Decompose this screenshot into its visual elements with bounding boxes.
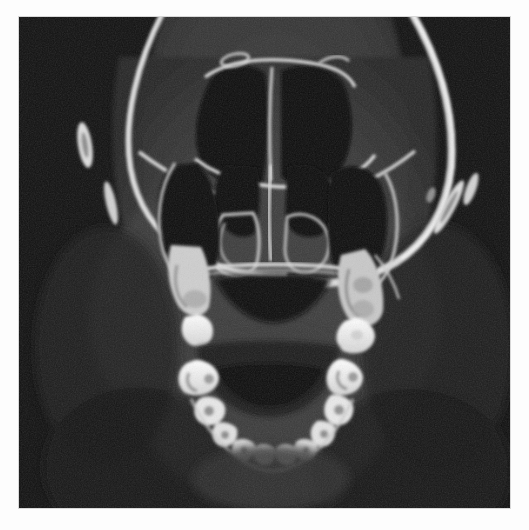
scan-title: Coronal CBCT of maxillofacial skeleton	[0, 0, 1, 1]
medical-image-viewer: CBCT coronal maxillofacial Coronal CBCT …	[0, 0, 529, 530]
overlay-text	[0, 0, 1, 1]
viewer-region-label: maxillofacial	[0, 0, 1, 1]
scan-frame	[19, 17, 510, 508]
scan-ylabel: superior — inferior	[0, 0, 1, 1]
scan-xlabel: patient left — patient right	[0, 0, 1, 1]
viewer-modality-label: CBCT	[0, 0, 1, 1]
ct-slice-image	[19, 17, 510, 508]
ct-slice-svg	[19, 17, 510, 508]
viewer-view-label: coronal	[0, 0, 1, 1]
